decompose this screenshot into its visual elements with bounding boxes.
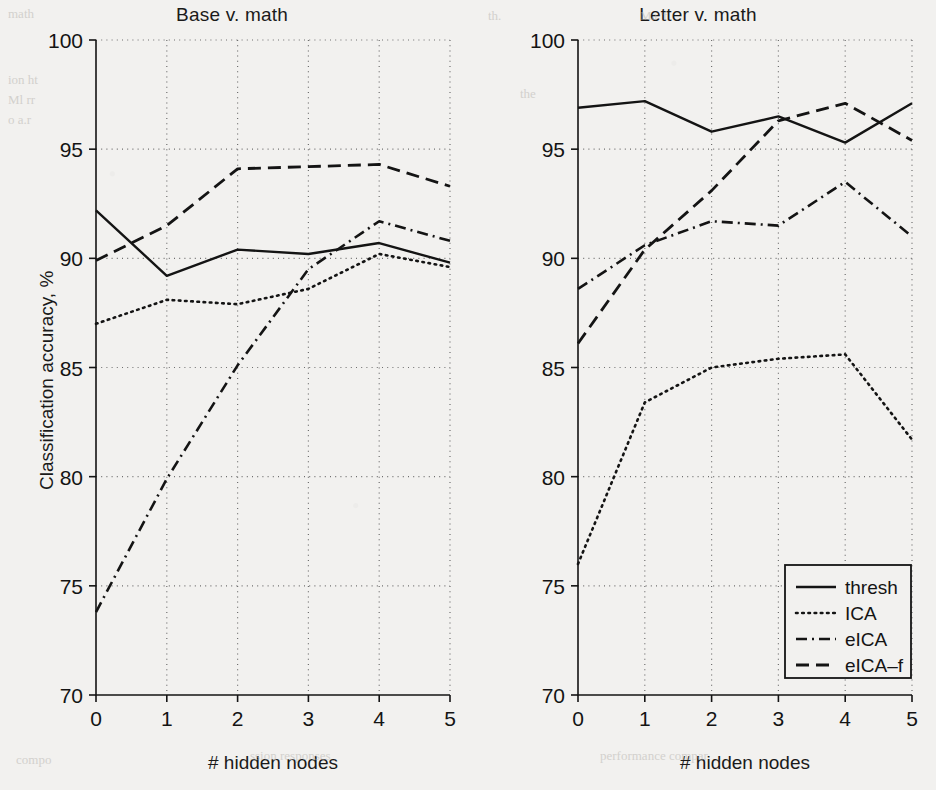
y-tick-label: 85 <box>542 357 565 380</box>
y-tick-label: 70 <box>542 684 565 707</box>
y-tick-label: 80 <box>60 466 83 489</box>
legend-label-ica: ICA <box>845 603 877 624</box>
plot-left: 707580859095100012345 <box>0 0 468 790</box>
x-tick-label: 3 <box>303 707 315 730</box>
legend-label-eica: eICA <box>845 629 888 650</box>
panel-right-title: Letter v. math <box>488 4 908 26</box>
y-tick-label: 75 <box>60 575 83 598</box>
plot-right: 707580859095100012345threshICAeICAeICA–f <box>468 0 936 790</box>
x-tick-label: 4 <box>839 707 851 730</box>
y-tick-label: 85 <box>60 357 83 380</box>
y-tick-label: 95 <box>60 138 83 161</box>
series-line-thresh <box>96 210 450 275</box>
y-tick-label: 100 <box>530 29 565 52</box>
x-tick-label: 2 <box>232 707 244 730</box>
x-tick-label: 0 <box>90 707 102 730</box>
series-line-eica-f <box>96 164 450 260</box>
x-tick-label: 1 <box>161 707 173 730</box>
y-tick-label: 90 <box>60 247 83 270</box>
panel-base-v-math: Base v. math Classification accuracy, % … <box>0 0 468 790</box>
y-tick-label: 80 <box>542 466 565 489</box>
x-tick-label: 5 <box>906 707 918 730</box>
x-tick-label: 4 <box>373 707 385 730</box>
y-axis-label: Classification accuracy, % <box>36 271 58 490</box>
x-axis-label-left: # hidden nodes <box>193 752 353 774</box>
figure-canvas: Base v. math Classification accuracy, % … <box>0 0 936 790</box>
y-tick-label: 90 <box>542 247 565 270</box>
y-tick-label: 95 <box>542 138 565 161</box>
y-tick-label: 100 <box>48 29 83 52</box>
x-axis-label-right: # hidden nodes <box>665 752 825 774</box>
x-tick-label: 0 <box>572 707 584 730</box>
series-line-thresh <box>578 101 912 142</box>
series-line-ica <box>96 254 450 324</box>
legend-label-thresh: thresh <box>845 577 898 598</box>
x-tick-label: 3 <box>773 707 785 730</box>
x-tick-label: 1 <box>639 707 651 730</box>
panel-letter-v-math: Letter v. math # hidden nodes 7075808590… <box>468 0 936 790</box>
series-line-ica <box>578 354 912 564</box>
panel-left-title: Base v. math <box>22 4 442 26</box>
y-tick-label: 70 <box>60 684 83 707</box>
legend-label-eica-f: eICA–f <box>845 655 904 676</box>
y-tick-label: 75 <box>542 575 565 598</box>
x-tick-label: 2 <box>706 707 718 730</box>
series-line-eica <box>96 221 450 612</box>
x-tick-label: 5 <box>444 707 456 730</box>
